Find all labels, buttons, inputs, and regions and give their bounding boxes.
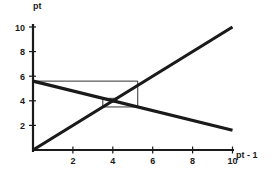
cobweb-diagram-figure: pt pt - 1 2 4 6 8 10 2 <box>0 0 273 176</box>
y-tick-label: 4 <box>20 96 25 106</box>
x-tick-label: 2 <box>70 156 75 166</box>
plot-area: 2 4 6 8 10 2 4 6 8 10 <box>0 0 273 176</box>
data-series-layer <box>33 27 233 150</box>
y-tick-label: 2 <box>20 121 25 131</box>
y-tick-label: 6 <box>20 72 25 82</box>
x-tick-labels: 2 4 6 8 10 <box>70 156 237 166</box>
y-tick-label: 10 <box>15 23 25 33</box>
x-tick-label: 4 <box>110 156 115 166</box>
x-tick-label: 6 <box>150 156 155 166</box>
y-tick-label: 8 <box>20 47 25 57</box>
x-tick-label: 10 <box>227 156 237 166</box>
y-tick-labels: 2 4 6 8 10 <box>15 23 25 132</box>
x-tick-label: 8 <box>190 156 195 166</box>
